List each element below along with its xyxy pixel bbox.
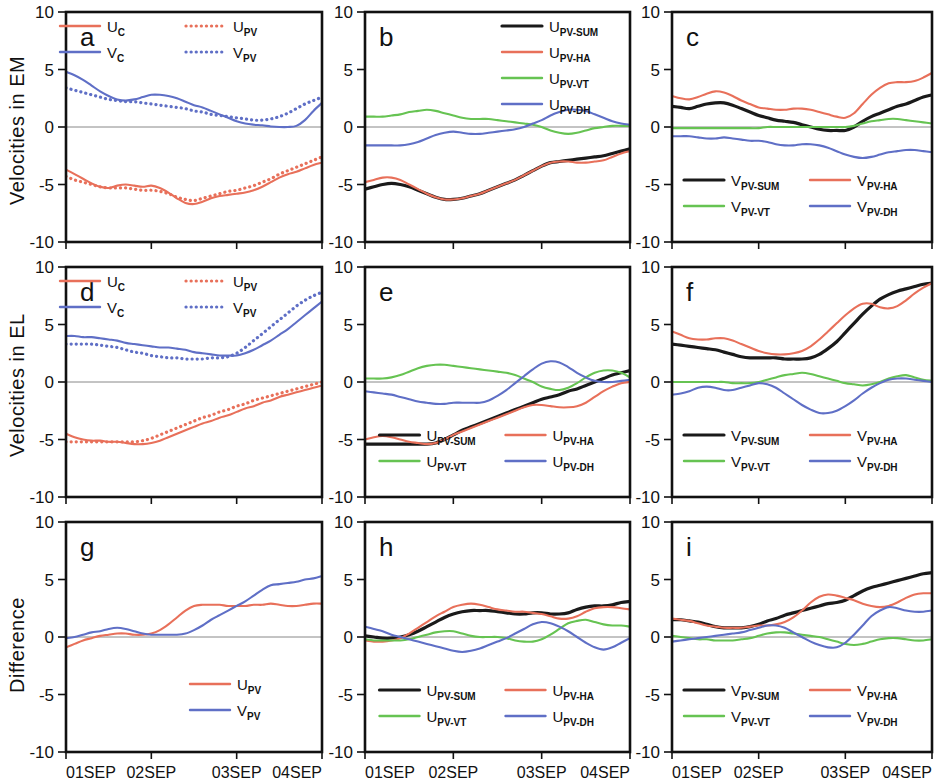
figure-root: Velocities in EM Velocities in EL Differ… <box>0 0 945 781</box>
xtick-label-i-0: 01SEP <box>672 764 722 781</box>
ytick-label-a-2: 0 <box>45 118 54 137</box>
ytick-label-f-0: 10 <box>641 261 660 277</box>
series-line-i-0 <box>672 573 932 628</box>
legend-b: UPV-SUMUPV-HAUPV-VTUPV-DH <box>502 18 598 116</box>
ytick-label-b-4: -10 <box>328 233 353 250</box>
ytick-label-c-0: 10 <box>641 6 660 22</box>
legend-label-d-0: UC <box>107 273 125 293</box>
ytick-label-h-3: -5 <box>338 686 353 705</box>
ytick-label-i-4: -10 <box>635 743 660 762</box>
legend-label-f-2: VPV-VT <box>731 453 770 473</box>
ytick-label-b-0: 10 <box>334 6 353 22</box>
panel-letter-b: b <box>379 22 393 52</box>
series-line-b-0 <box>365 149 630 200</box>
legend-label-f-0: VPV-SUM <box>731 427 779 447</box>
panel-letter-h: h <box>379 532 393 562</box>
series-line-i-2 <box>672 632 932 645</box>
legend-label-g-1: VPV <box>237 702 261 722</box>
ytick-label-f-1: 5 <box>651 316 660 335</box>
legend-label-f-3: VPV-DH <box>857 453 898 473</box>
ytick-label-e-1: 5 <box>344 316 353 335</box>
legend-i: VPV-SUMVPV-HAVPV-VTVPV-DH <box>684 682 898 728</box>
ytick-label-h-0: 10 <box>334 516 353 532</box>
xtick-label-i-1: 02SEP <box>734 764 784 781</box>
chart-panel-e: 1050-5-10eUPV-SUMUPV-HAUPV-VTUPV-DH <box>303 261 640 505</box>
legend-label-h-2: UPV-VT <box>427 708 467 728</box>
ytick-label-b-1: 5 <box>344 61 353 80</box>
series-line-c-1 <box>672 73 932 118</box>
xtick-label-i-3: 04SEP <box>882 764 932 781</box>
series-line-a-1 <box>66 157 322 201</box>
legend-label-h-1: UPV-HA <box>553 682 594 702</box>
chart-panel-i: 1050-5-1001SEP02SEP03SEP04SEPiVPV-SUMVPV… <box>610 516 942 781</box>
legend-label-i-1: VPV-HA <box>857 682 898 702</box>
ytick-label-a-4: -10 <box>29 233 54 250</box>
series-line-i-3 <box>672 607 932 648</box>
legend-label-b-1: UPV-HA <box>549 44 590 64</box>
legend-label-c-3: VPV-DH <box>857 198 898 218</box>
xtick-label-h-0: 01SEP <box>365 764 415 781</box>
ytick-label-f-2: 0 <box>651 373 660 392</box>
legend-label-a-3: VPV <box>233 44 257 64</box>
legend-label-h-3: UPV-DH <box>553 708 594 728</box>
panel-letter-g: g <box>80 532 94 562</box>
xtick-label-g-1: 02SEP <box>126 764 176 781</box>
legend-e: UPV-SUMUPV-HAUPV-VTUPV-DH <box>380 427 594 473</box>
chart-panel-h: 1050-5-1001SEP02SEP03SEP04SEPhUPV-SUMUPV… <box>303 516 640 781</box>
ytick-label-i-1: 5 <box>651 571 660 590</box>
ytick-label-g-3: -5 <box>39 686 54 705</box>
ytick-label-d-0: 10 <box>35 261 54 277</box>
ytick-label-d-4: -10 <box>29 488 54 505</box>
panel-letter-e: e <box>379 277 393 307</box>
xtick-label-g-0: 01SEP <box>66 764 116 781</box>
series-line-g-1 <box>66 576 322 638</box>
ytick-label-g-1: 5 <box>45 571 54 590</box>
panel-letter-f: f <box>686 277 694 307</box>
legend-label-b-0: UPV-SUM <box>549 18 598 38</box>
chart-panel-c: 1050-5-10cVPV-SUMVPV-HAVPV-VTVPV-DH <box>610 6 942 250</box>
ytick-label-a-1: 5 <box>45 61 54 80</box>
ytick-label-g-4: -10 <box>29 743 54 762</box>
series-line-d-2 <box>66 302 322 356</box>
legend-label-f-1: VPV-HA <box>857 427 898 447</box>
legend-label-i-0: VPV-SUM <box>731 682 779 702</box>
legend-label-c-2: VPV-VT <box>731 198 770 218</box>
panel-letter-i: i <box>686 532 692 562</box>
ytick-label-e-3: -5 <box>338 431 353 450</box>
series-line-e-2 <box>365 365 630 390</box>
legend-label-g-0: UPV <box>237 676 262 696</box>
legend-f: VPV-SUMVPV-HAVPV-VTVPV-DH <box>684 427 898 473</box>
panel-letter-c: c <box>686 22 699 52</box>
ytick-label-d-1: 5 <box>45 316 54 335</box>
chart-panel-d: 1050-5-10dUCUPVVCVPV <box>4 261 332 505</box>
legend-label-d-1: UPV <box>233 273 258 293</box>
series-line-c-0 <box>672 95 932 131</box>
legend-label-a-1: UPV <box>233 18 258 38</box>
ytick-label-i-2: 0 <box>651 628 660 647</box>
legend-c: VPV-SUMVPV-HAVPV-VTVPV-DH <box>684 172 898 218</box>
legend-label-e-1: UPV-HA <box>553 427 594 447</box>
series-line-f-0 <box>672 283 932 359</box>
xtick-label-h-1: 02SEP <box>428 764 478 781</box>
chart-panel-f: 1050-5-10fVPV-SUMVPV-HAVPV-VTVPV-DH <box>610 261 942 505</box>
legend-label-a-2: VC <box>107 44 124 64</box>
ytick-label-c-1: 5 <box>651 61 660 80</box>
ytick-label-h-4: -10 <box>328 743 353 762</box>
ytick-label-f-3: -5 <box>645 431 660 450</box>
series-line-a-0 <box>66 163 322 204</box>
ytick-label-e-4: -10 <box>328 488 353 505</box>
xtick-label-h-2: 03SEP <box>517 764 567 781</box>
series-line-d-1 <box>66 382 322 442</box>
ytick-label-d-3: -5 <box>39 431 54 450</box>
ytick-label-a-3: -5 <box>39 176 54 195</box>
legend-label-a-0: UC <box>107 18 125 38</box>
legend-label-i-2: VPV-VT <box>731 708 770 728</box>
ytick-label-i-3: -5 <box>645 686 660 705</box>
legend-label-c-1: VPV-HA <box>857 172 898 192</box>
legend-label-e-2: UPV-VT <box>427 453 467 473</box>
ytick-label-c-3: -5 <box>645 176 660 195</box>
xtick-label-i-2: 03SEP <box>820 764 870 781</box>
ytick-label-a-0: 10 <box>35 6 54 22</box>
ytick-label-e-0: 10 <box>334 261 353 277</box>
ytick-label-i-0: 10 <box>641 516 660 532</box>
